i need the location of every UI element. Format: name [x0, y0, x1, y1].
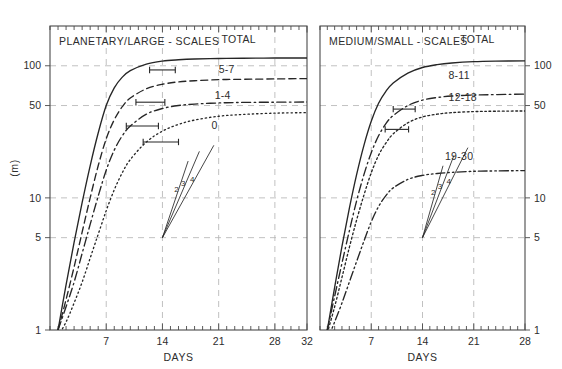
x-tick-label: 21 — [213, 335, 225, 347]
y-tick-label: 10 — [29, 192, 41, 204]
panel-title: MEDIUM/SMALL - SCALES — [329, 35, 468, 47]
x-tick-label: 14 — [157, 335, 169, 347]
y-tick-label: 5 — [35, 231, 41, 243]
curve-label-total: TOTAL — [460, 33, 494, 45]
y-tick-label: 100 — [23, 59, 41, 71]
x-tick-label: 14 — [417, 335, 429, 347]
curve-label-12-18: 12-18 — [449, 91, 477, 103]
x-tick-label: 7 — [368, 335, 374, 347]
x-axis-title: DAYS — [163, 351, 193, 363]
fan-ray-label-4: 4 — [446, 177, 451, 186]
y-tick-label: 1 — [534, 324, 540, 336]
curve-label-0: 0 — [212, 119, 218, 131]
fan-ray-label-4: 4 — [190, 175, 195, 184]
fan-ray-label-3: 3 — [438, 182, 443, 191]
x-tick-label: 21 — [468, 335, 480, 347]
x-tick-label: 32 — [301, 335, 313, 347]
curve-label-5-7: 5-7 — [219, 63, 235, 75]
x-axis-title: DAYS — [407, 351, 437, 363]
y-axis-title: (m) — [8, 159, 20, 177]
x-tick-label: 28 — [269, 335, 281, 347]
y-tick-label: 50 — [534, 99, 546, 111]
fan-ray-label-3: 3 — [181, 179, 186, 188]
panel-title: PLANETARY/LARGE - SCALES — [59, 35, 219, 47]
fan-ray-label-2: 2 — [431, 188, 436, 197]
y-tick-label: 5 — [534, 231, 540, 243]
x-tick-label: 28 — [519, 335, 531, 347]
curve-label-19-30: 19-30 — [445, 150, 473, 162]
curve-label-1-4: 1-4 — [215, 89, 231, 101]
curve-label-total: TOTAL — [222, 33, 256, 45]
y-tick-label: 1 — [35, 324, 41, 336]
y-tick-label: 100 — [534, 59, 552, 71]
fan-ray-label-2: 2 — [174, 185, 179, 194]
figure-canvas: PLANETARY/LARGE - SCALESTOTAL5-71-402347… — [0, 0, 562, 369]
x-tick-label: 7 — [103, 335, 109, 347]
y-tick-label: 10 — [534, 192, 546, 204]
y-tick-label: 50 — [29, 99, 41, 111]
figure-background — [0, 0, 562, 369]
curve-label-8-11: 8-11 — [448, 69, 469, 81]
